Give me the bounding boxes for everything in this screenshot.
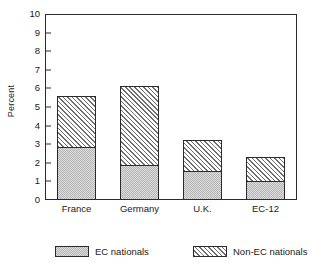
y-axis-tick-label: 7: [24, 65, 40, 75]
bar-group: [183, 140, 222, 200]
bar-group: [57, 97, 96, 200]
legend-swatch-icon: [55, 246, 89, 257]
y-axis-title: Percent: [6, 66, 16, 136]
y-axis-tick-label: 2: [24, 158, 40, 168]
bar-group: [120, 87, 159, 200]
legend-swatch-icon: [193, 246, 227, 257]
x-axis-tick-labels: FranceGermanyU.K.EC-12: [45, 203, 297, 219]
bar-segment: [183, 140, 222, 173]
x-axis-tick-label: EC-12: [234, 203, 297, 215]
bar-segment: [120, 165, 159, 200]
y-axis-tick-labels: 109876543210: [24, 14, 40, 200]
bar-segment: [120, 86, 159, 165]
bar-segment: [246, 181, 285, 200]
y-axis-tick-label: 1: [24, 177, 40, 187]
bar-segment: [57, 147, 96, 200]
legend-entry[interactable]: Non-EC nationals: [193, 244, 307, 258]
legend-label: EC nationals: [95, 246, 149, 257]
x-axis-tick-label: France: [45, 203, 108, 215]
y-axis-tick-label: 8: [24, 46, 40, 56]
y-axis-tick-label: 0: [24, 195, 40, 205]
y-axis-tick-label: 5: [24, 102, 40, 112]
x-axis-tick-label: Germany: [108, 203, 171, 215]
bar-segment: [57, 96, 96, 148]
bar-segment: [183, 171, 222, 200]
bar-segment: [246, 157, 285, 182]
legend-entry[interactable]: EC nationals: [55, 244, 149, 258]
y-axis-tick-label: 3: [24, 139, 40, 149]
x-axis-tick-label: U.K.: [171, 203, 234, 215]
chart-legend: EC nationalsNon-EC nationals: [45, 244, 300, 262]
stacked-bar-chart: Percent 109876543210 FranceGermanyU.K.EC…: [0, 0, 310, 276]
y-axis-tick-label: 6: [24, 84, 40, 94]
y-axis-tick-label: 4: [24, 121, 40, 131]
legend-label: Non-EC nationals: [233, 246, 307, 257]
y-axis-tick-label: 10: [24, 9, 40, 19]
bar-group: [246, 158, 285, 200]
bars-layer: [45, 14, 297, 200]
y-axis-tick-label: 9: [24, 28, 40, 38]
